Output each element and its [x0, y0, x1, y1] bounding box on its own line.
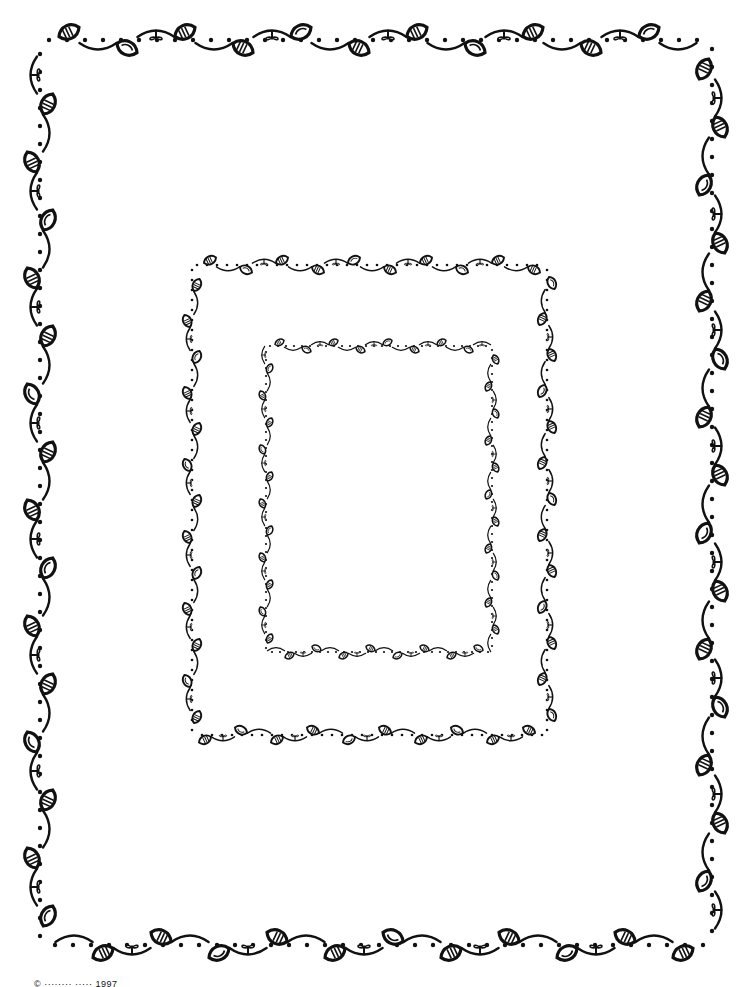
vine-arc [427, 43, 464, 50]
vine-arc [659, 43, 696, 50]
leaf-icon [265, 579, 275, 591]
leaf-icon [709, 346, 731, 372]
leaf-icon [419, 644, 431, 654]
leaf-icon [258, 498, 268, 510]
leaf-icon [693, 288, 715, 314]
vine-arc [703, 833, 710, 870]
leaf-icon [392, 651, 404, 661]
vine-arc [541, 433, 545, 456]
vine-arc [43, 694, 50, 731]
vine-arc [311, 43, 348, 50]
vine-arc [488, 472, 491, 489]
leaf-icon [693, 636, 715, 662]
frame-artwork [0, 0, 740, 987]
leaf-icon [346, 37, 372, 59]
vine-arc [703, 137, 710, 174]
leaf-icon [693, 868, 715, 894]
leaf-icon [305, 724, 320, 737]
leaf-icon [190, 349, 203, 364]
vine-arc [194, 507, 198, 530]
leaf-icon [382, 263, 397, 276]
vine-arc [267, 589, 270, 606]
leaf-icon [491, 570, 501, 582]
vine-arc [267, 373, 270, 390]
leaf-icon [484, 489, 494, 501]
vine-arc [446, 347, 463, 350]
leaf-icon [536, 311, 549, 326]
vine-arc [43, 578, 50, 615]
leaf-icon [545, 491, 558, 506]
vine-arc [703, 717, 710, 754]
leaf-icon [612, 926, 638, 948]
vine-arc [375, 648, 392, 651]
leaf-icon [181, 313, 194, 328]
vine-arc [703, 369, 710, 406]
leaf-icon [190, 565, 203, 580]
vine-arc [247, 729, 270, 733]
leaf-icon [230, 37, 256, 59]
leaf-icon [496, 926, 522, 948]
leaf-icon [37, 903, 59, 929]
leaf-icon [377, 724, 392, 737]
leaf-icon [148, 926, 174, 948]
leaf-icon [37, 439, 59, 465]
leaf-icon [21, 149, 43, 175]
leaf-icon [485, 733, 500, 746]
leaf-icon [181, 673, 194, 688]
leaf-icon [709, 114, 731, 140]
leaf-icon [693, 520, 715, 546]
vine-arc [43, 810, 50, 847]
leaf-icon [328, 338, 340, 348]
leaf-icon [438, 942, 464, 964]
vine-arc [429, 648, 446, 651]
leaf-icon [341, 733, 356, 746]
leaf-icon [545, 419, 558, 434]
leaf-icon [545, 635, 558, 650]
leaf-icon [21, 729, 43, 755]
vine-arc [488, 526, 491, 543]
leaf-icon [37, 91, 59, 117]
vine-arc [43, 230, 50, 267]
vine-arc [194, 651, 198, 674]
leaf-icon [709, 230, 731, 256]
vine-arc [488, 364, 491, 381]
vine-arc [43, 462, 50, 499]
leaf-icon [709, 810, 731, 836]
vine-arc [488, 580, 491, 597]
leaf-icon [181, 601, 194, 616]
leaf-icon [355, 345, 367, 355]
leaf-icon [520, 21, 546, 43]
leaf-icon [380, 926, 406, 948]
vine-arc [171, 936, 208, 943]
vine-arc [504, 267, 527, 271]
leaf-icon [490, 254, 505, 267]
leaf-icon [190, 421, 203, 436]
leaf-icon [274, 338, 286, 348]
leaf-icon [233, 724, 248, 737]
vine-arc [488, 418, 491, 435]
leaf-icon [536, 383, 549, 398]
leaf-icon [536, 599, 549, 614]
leaf-icon [238, 263, 253, 276]
leaf-icon [21, 613, 43, 639]
vine-arc [703, 485, 710, 522]
leaf-icon [413, 733, 428, 746]
vine-arc [194, 579, 198, 602]
vine-arc [287, 936, 324, 943]
leaf-icon [545, 563, 558, 578]
leaf-icon [258, 552, 268, 564]
vine-arc [703, 253, 710, 290]
leaf-icon [21, 497, 43, 523]
vine-arc [195, 43, 232, 50]
leaf-icon [284, 651, 296, 661]
leaf-icon [338, 651, 350, 661]
leaf-icon [536, 455, 549, 470]
leaf-icon [491, 354, 501, 366]
vine-arc [319, 729, 342, 733]
leaf-icon [521, 724, 536, 737]
outer-leaf-frame [21, 21, 731, 964]
leaf-icon [265, 417, 275, 429]
leaf-icon [365, 644, 377, 654]
leaf-icon [264, 926, 290, 948]
leaf-icon [484, 435, 494, 447]
